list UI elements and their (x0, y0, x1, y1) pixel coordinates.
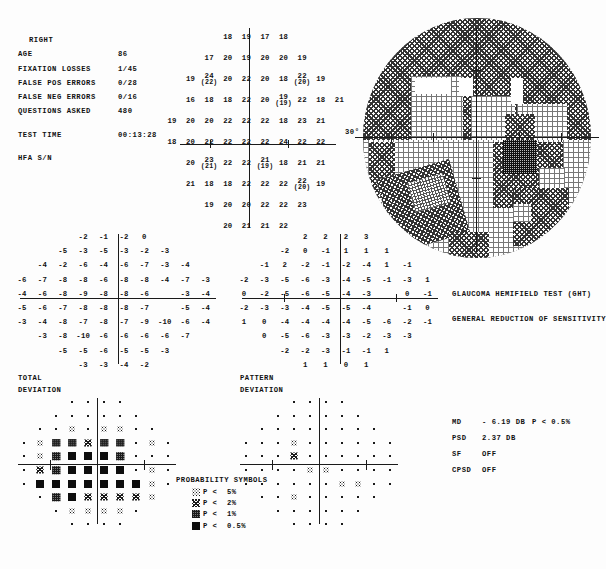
dot-symbol-icon (341, 469, 343, 471)
p5-symbol-icon (117, 426, 123, 432)
p1-symbol-icon (116, 439, 124, 447)
dot-symbol-icon (309, 496, 311, 498)
probability-symbol (339, 481, 345, 487)
raw-threshold-grid: 181917181720192020191924(22)2022201822(2… (176, 26, 336, 231)
dot-symbol-icon (341, 496, 343, 498)
probability-symbol (84, 466, 92, 474)
threshold-value: -6 (99, 334, 108, 342)
p1-symbol-icon (52, 439, 60, 447)
threshold-value: -4 (301, 319, 310, 327)
p5-symbol-icon (149, 440, 155, 446)
dot-symbol-icon (341, 442, 343, 444)
age-value: 86 (118, 50, 128, 58)
dot-symbol-icon (389, 483, 391, 485)
p05-symbol-icon (84, 466, 92, 474)
threshold-value: 21 (316, 118, 325, 126)
probability-symbol (87, 428, 89, 430)
threshold-value: -6 (181, 319, 190, 327)
probability-symbol (277, 510, 279, 512)
probability-symbol (277, 415, 279, 417)
dot-symbol-icon (167, 442, 169, 444)
p1-symbol-icon (52, 466, 60, 474)
global-indices-block: MD - 6.19 DB P < 0.5% PSD 2.37 DB SF OFF… (452, 418, 571, 482)
threshold-value: 0 (262, 319, 267, 327)
probability-symbol (325, 496, 327, 498)
threshold-value: -6 (301, 277, 310, 285)
threshold-value: 0 (242, 291, 247, 299)
p2-symbol-icon (291, 453, 298, 460)
probability-symbol (309, 442, 311, 444)
threshold-value: 22(20) (294, 73, 311, 87)
axis-tick (144, 460, 145, 470)
dot-symbol-icon (135, 469, 137, 471)
dot-symbol-icon (277, 496, 279, 498)
threshold-value: 22 (260, 118, 269, 126)
probability-symbol (341, 496, 343, 498)
probability-symbol (389, 442, 391, 444)
legend-p-value: 2% (227, 499, 236, 507)
threshold-value: 17 (205, 55, 214, 63)
grayscale-map (363, 18, 591, 258)
legend-item-p05: P < 0.5% (192, 522, 267, 530)
dot-symbol-icon (293, 510, 295, 512)
probability-symbol (325, 415, 327, 417)
probability-symbol (167, 442, 169, 444)
threshold-value: -6 (301, 334, 310, 342)
ght-result: GENERAL REDUCTION OF SENSITIVITY (452, 315, 606, 323)
probability-symbol (323, 467, 329, 473)
dot-symbol-icon (325, 415, 327, 417)
p05-symbol-icon (52, 480, 60, 488)
probability-symbol (100, 466, 108, 474)
threshold-value: -1 (341, 348, 350, 356)
test-time-value: 00:13:28 (118, 131, 157, 139)
threshold-value: -1 (403, 263, 412, 271)
probability-symbol (149, 467, 155, 473)
probability-symbol (119, 523, 121, 525)
p5-symbol-icon (101, 508, 107, 514)
axis-tick (472, 178, 481, 179)
p1-symbol-icon (68, 439, 76, 447)
cpsd-value: OFF (482, 466, 532, 474)
probability-symbol (325, 455, 327, 457)
threshold-value: -6 (382, 319, 391, 327)
threshold-value: -3 (403, 334, 412, 342)
threshold-value: -4 (201, 305, 210, 313)
dot-symbol-icon (277, 455, 279, 457)
probability-symbol (373, 442, 375, 444)
probability-symbol (357, 455, 359, 457)
threshold-value: 20 (260, 55, 269, 63)
p05-symbol-icon (36, 480, 44, 488)
probability-symbol (261, 469, 263, 471)
gs-region (449, 232, 489, 258)
axis-tick (50, 460, 51, 470)
threshold-value: -6 (79, 263, 88, 271)
threshold-value: 22 (205, 139, 214, 147)
p05-symbol-icon (116, 466, 124, 474)
probability-symbol (309, 510, 311, 512)
threshold-value: 23(21) (201, 157, 218, 171)
total-deviation-label-line2: DEVIATION (18, 386, 61, 394)
axis-tick (331, 144, 336, 145)
questions-asked-value: 480 (118, 107, 133, 115)
threshold-value: 23 (298, 118, 307, 126)
axis-tick (249, 194, 250, 200)
probability-symbol (55, 415, 57, 417)
threshold-value: -4 (341, 277, 350, 285)
legend-item-p5: P < 5% (192, 488, 267, 496)
threshold-value: -5 (17, 305, 26, 313)
probability-symbol (245, 455, 247, 457)
threshold-value: -1 (423, 319, 432, 327)
dot-symbol-icon (293, 428, 295, 430)
probability-symbol (101, 508, 107, 514)
threshold-value: 22 (242, 97, 251, 105)
dot-symbol-icon (135, 455, 137, 457)
threshold-value: -5 (79, 348, 88, 356)
probability-symbol (151, 455, 153, 457)
probability-symbol (87, 415, 89, 417)
probability-symbol (357, 428, 359, 430)
threshold-value: -8 (99, 291, 108, 299)
threshold-value: -6 (99, 277, 108, 285)
threshold-value: -6 (140, 291, 149, 299)
dot-symbol-icon (293, 469, 295, 471)
vertical-axis (340, 234, 341, 364)
